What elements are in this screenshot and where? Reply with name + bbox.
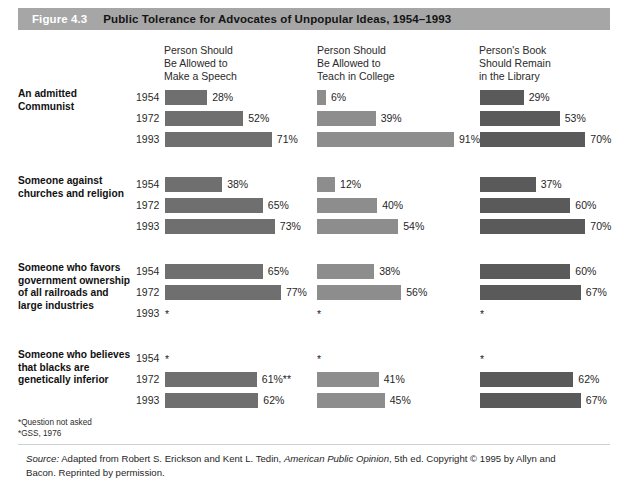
bar <box>480 90 524 105</box>
year-label: 1993 <box>136 220 164 232</box>
bar-value-label: 62% <box>578 373 599 385</box>
bar <box>317 219 398 234</box>
bar-row: 195438%12%37% <box>0 175 627 196</box>
year-label: 1954 <box>136 352 164 364</box>
bar-value-label: 77% <box>286 286 307 298</box>
bar <box>480 393 581 408</box>
not-asked-marker: * <box>165 308 169 320</box>
year-label: 1993 <box>136 133 164 145</box>
bar-value-label: 40% <box>382 199 403 211</box>
bar <box>480 219 585 234</box>
bar-value-label: 65% <box>268 199 289 211</box>
bar <box>165 177 222 192</box>
bar-row: 197252%39%53% <box>0 109 627 130</box>
bar <box>317 90 326 105</box>
year-label: 1954 <box>136 265 164 277</box>
bar <box>165 90 207 105</box>
not-asked-marker: * <box>165 353 169 365</box>
bar <box>165 264 263 279</box>
bar <box>317 285 401 300</box>
bar-value-label: 60% <box>575 199 596 211</box>
bar-value-label: 70% <box>590 133 611 145</box>
bar-value-label: 60% <box>575 265 596 277</box>
bar-group: Someone who favors government ownership … <box>0 262 627 325</box>
bar <box>165 111 243 126</box>
bar <box>165 198 263 213</box>
bar-value-label: 12% <box>340 178 361 190</box>
bar-value-label: 45% <box>390 394 411 406</box>
bar <box>317 372 379 387</box>
bar-row: 1954*** <box>0 349 627 370</box>
bar-value-label: 37% <box>541 178 562 190</box>
bar-value-label: 54% <box>403 220 424 232</box>
figure-number: Figure 4.3 <box>32 13 87 25</box>
bar-value-label: 73% <box>280 220 301 232</box>
bar <box>480 177 536 192</box>
not-asked-marker: * <box>317 308 321 320</box>
year-label: 1954 <box>136 178 164 190</box>
bar-value-label: 29% <box>529 91 550 103</box>
bar-value-label: 6% <box>331 91 346 103</box>
column-header-remain-in-library: Person's Book Should Remain in the Libra… <box>479 44 551 84</box>
footnote-question-not-asked: *Question not asked <box>18 417 92 428</box>
bar <box>480 285 581 300</box>
column-header-teach-in-college: Person Should Be Allowed to Teach in Col… <box>317 44 395 84</box>
bar <box>165 372 257 387</box>
bar-value-label: 52% <box>248 112 269 124</box>
bar <box>317 177 335 192</box>
bar-value-label: 70% <box>590 220 611 232</box>
bar-value-label: 56% <box>406 286 427 298</box>
not-asked-marker: * <box>480 353 484 365</box>
bar-value-label: 38% <box>227 178 248 190</box>
bar <box>480 372 573 387</box>
figure-title: Public Tolerance for Advocates of Unpopu… <box>103 13 451 25</box>
year-label: 1972 <box>136 199 164 211</box>
bar-value-label: 65% <box>268 265 289 277</box>
year-label: 1972 <box>136 112 164 124</box>
bar-value-label: 71% <box>277 133 298 145</box>
footnote-gss: *GSS, 1976 <box>18 428 92 439</box>
bar <box>317 132 454 147</box>
bar-group: An admitted Communist195428%6%29%197252%… <box>0 88 627 151</box>
not-asked-marker: * <box>480 308 484 320</box>
bar <box>480 264 570 279</box>
figure-title-band: Figure 4.3 Public Tolerance for Advocate… <box>18 8 610 30</box>
bar <box>480 111 560 126</box>
bar <box>165 219 275 234</box>
bar <box>480 132 585 147</box>
bar <box>165 132 272 147</box>
bar-row: 197277%56%67% <box>0 283 627 304</box>
source-divider <box>18 444 610 445</box>
year-label: 1972 <box>136 286 164 298</box>
year-label: 1954 <box>136 91 164 103</box>
bar <box>480 198 570 213</box>
bar-group: Someone against churches and religion195… <box>0 175 627 238</box>
bar <box>317 111 376 126</box>
bar-value-label: 28% <box>212 91 233 103</box>
bar <box>317 393 385 408</box>
bar <box>317 264 374 279</box>
source-note: Source: Adapted from Robert S. Erickson … <box>26 452 586 479</box>
bar-row: 199371%91%70% <box>0 130 627 151</box>
bar-group: Someone who believes that blacks are gen… <box>0 349 627 412</box>
bar <box>165 285 281 300</box>
bar-value-label: 53% <box>565 112 586 124</box>
source-book-title: American Public Opinion <box>284 453 389 464</box>
bar-value-label: 62% <box>263 394 284 406</box>
bar-value-label: 91% <box>459 133 480 145</box>
bar-value-label: 38% <box>379 265 400 277</box>
column-header-make-a-speech: Person Should Be Allowed to Make a Speec… <box>164 44 237 84</box>
bar-row: 195465%38%60% <box>0 262 627 283</box>
chart-body: An admitted Communist195428%6%29%197252%… <box>0 88 627 412</box>
bar-row: 197265%40%60% <box>0 196 627 217</box>
bar-row: 199362%45%67% <box>0 391 627 412</box>
footnotes: *Question not asked *GSS, 1976 <box>18 417 92 439</box>
bar <box>317 198 377 213</box>
bar-row: 197261%**41%62% <box>0 370 627 391</box>
bar-row: 1993*** <box>0 304 627 325</box>
not-asked-marker: * <box>317 353 321 365</box>
bar-row: 195428%6%29% <box>0 88 627 109</box>
bar-value-label: 67% <box>586 394 607 406</box>
year-label: 1993 <box>136 394 164 406</box>
bar-row: 199373%54%70% <box>0 217 627 238</box>
